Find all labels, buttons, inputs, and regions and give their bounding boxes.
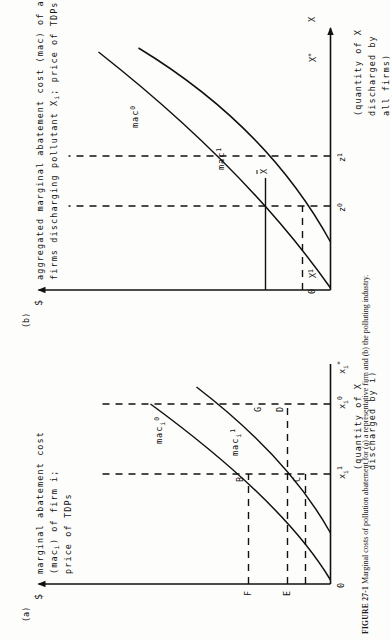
panel-a-origin: 0 <box>335 583 345 588</box>
xistar-sup: * <box>335 361 343 365</box>
panel-a-curve-label-mac1: maci1 <box>228 428 243 456</box>
panel-a-y-axis-label-line2: (maci) of firm i; <box>48 470 63 575</box>
panel-a-y-axis-label-line1: marginal abatement cost <box>34 431 45 574</box>
mac1-sub-i: i <box>235 433 243 438</box>
mac0-sup-0: 0 <box>152 416 160 421</box>
mac0-sub-i: i <box>159 421 167 426</box>
panel-b-y-axis-label-line1: aggregated marginal abatement cost (mac)… <box>34 0 45 280</box>
xi0-sub: i <box>342 400 350 404</box>
figure-caption-text: Marginal costs of pollution abatement fo… <box>361 275 370 584</box>
panel-a-tick-xistar: xi* <box>335 361 350 374</box>
panel-b-origin: 0 <box>306 289 316 294</box>
panel-b-curve-label-mac0: mac0 <box>128 105 140 128</box>
z1-sup: 1 <box>335 153 343 157</box>
z0-sup: 0 <box>335 203 343 207</box>
panel-b-x-axis-label-line3: all firms) <box>380 54 391 116</box>
panel-b-marker: (b) <box>20 313 30 328</box>
panel-b-tick-X1: X1 <box>306 269 318 278</box>
xi1-sub: i <box>342 470 350 474</box>
panel-a-curve-label-mac0: maci0 <box>152 416 167 444</box>
panel-b-axes <box>38 28 330 290</box>
xistar-sub: i <box>342 365 350 369</box>
panel-a-point-F: F <box>242 591 252 596</box>
panel-b-point-z0: z0 <box>335 203 347 212</box>
panel-a-curves <box>150 387 330 580</box>
b-mac1-sup: 1 <box>214 147 222 152</box>
figure-caption: FIGURE 27-1 Marginal costs of pollution … <box>361 275 370 634</box>
panel-a-point-B: B <box>234 477 244 482</box>
panel-b-y-axis-label-line2: firms discharging pollutant Xi; price of… <box>48 1 63 280</box>
xbar-glyph: X <box>258 169 268 174</box>
figure-caption-label: FIGURE 27-1 <box>361 586 370 634</box>
figure-caption-wrap: FIGURE 27-1 Marginal costs of pollution … <box>357 0 379 640</box>
xi1-sup: 1 <box>335 466 343 470</box>
panel-a-construction <box>100 404 330 584</box>
panel-a-marker: (a) <box>20 607 30 622</box>
panel-a-tick-xi1: xi1 <box>335 466 350 479</box>
panel-a-y-axis-label-line3: price of TDPs <box>62 493 73 574</box>
bXstar-sup: * <box>306 53 314 57</box>
bX1-sup: 1 <box>306 269 314 273</box>
panel-a-point-G: G <box>252 407 262 412</box>
panel-b-y-sub: i <box>53 95 61 100</box>
panel-b-point-z1: z1 <box>335 153 347 162</box>
panel-a-point-E: E <box>281 591 291 596</box>
xi0-sup: 0 <box>335 396 343 400</box>
panel-a-y-sub: i <box>53 544 61 549</box>
panel-b-xbar-label: X <box>258 169 268 174</box>
panel-a-dollar-sign: $ <box>32 594 43 600</box>
panel-b-axis-arrow-label: X <box>306 17 316 22</box>
panel-b-tick-Xstar: X* <box>306 53 318 62</box>
mac1-sup-1: 1 <box>228 428 236 433</box>
panel-b-dollar-sign: $ <box>32 300 43 306</box>
panel-b-construction <box>68 156 330 290</box>
panel-a-point-D: D <box>274 407 284 412</box>
panel-a-tick-xi0: xi0 <box>335 396 350 409</box>
panel-a-point-C: C <box>291 477 301 482</box>
panel-b-curve-label-mac1: mac1 <box>214 147 226 170</box>
b-mac0-sup: 0 <box>128 105 136 110</box>
